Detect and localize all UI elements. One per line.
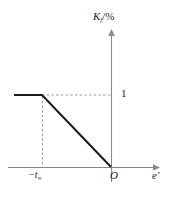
x-tick-label-minus-t-inf: −t∞	[29, 170, 42, 181]
y-axis-label-unit: /%	[102, 10, 114, 22]
origin-label: O	[110, 170, 118, 181]
y-tick-label-1: 1	[121, 88, 127, 99]
x-axis-label-prime: ′	[157, 169, 159, 181]
plot-canvas	[0, 0, 177, 197]
chart-figure: Kf/% e′ O 1 −t∞	[0, 0, 177, 197]
x-axis-label: e′	[152, 170, 159, 181]
y-axis-label: Kf/%	[93, 11, 114, 24]
y-axis-arrowhead	[108, 29, 115, 36]
x-tick-label-sub: ∞	[37, 174, 41, 181]
data-curve-kf	[14, 95, 111, 167]
